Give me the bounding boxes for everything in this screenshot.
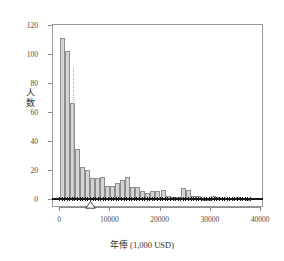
rug-tick (209, 197, 210, 201)
y-tick-label: 80 (31, 79, 39, 88)
x-tick-label: 10000 (100, 215, 119, 224)
rug-tick (245, 197, 246, 201)
rug-tick (188, 197, 189, 201)
y-tick-label: 120 (27, 21, 38, 30)
y-tick-label: 0 (34, 195, 38, 204)
rug-tick (154, 197, 155, 201)
rug-tick (167, 197, 168, 201)
rug-tick (240, 197, 241, 201)
rug-tick (224, 197, 225, 201)
x-tick-label: 30000 (200, 215, 219, 224)
rug-tick (185, 197, 186, 201)
rug-tick (175, 197, 176, 201)
y-tick-label: 40 (31, 137, 39, 146)
rug-tick (118, 197, 119, 201)
rug-tick (201, 197, 202, 201)
rug-plot (52, 197, 263, 201)
median-marker-icon (85, 201, 96, 209)
rug-tick (108, 197, 109, 201)
rug-tick (222, 197, 223, 201)
rug-tick (180, 197, 181, 201)
rug-tick (191, 197, 192, 201)
rug-tick (196, 197, 197, 201)
rug-tick (178, 197, 179, 201)
rug-tick (131, 197, 132, 201)
y-tick-mark (48, 83, 52, 84)
rug-tick (170, 197, 171, 201)
x-tick-label: 40000 (251, 215, 270, 224)
rug-tick (152, 197, 153, 201)
rug-tick (206, 197, 207, 201)
x-axis-label-main: 年俸 (110, 240, 128, 250)
rug-tick (144, 197, 145, 201)
y-tick-mark (48, 141, 52, 142)
rug-tick (198, 197, 199, 201)
rug-tick (157, 197, 158, 201)
y-tick-mark (48, 25, 52, 26)
y-axis-label-char: 数 (24, 98, 36, 108)
y-tick-label: 20 (31, 166, 39, 175)
rug-tick (82, 197, 83, 201)
rug-tick (136, 197, 137, 201)
rug-tick (62, 197, 63, 201)
rug-tick (229, 197, 230, 201)
rug-tick (100, 197, 101, 201)
x-tick-mark (260, 207, 261, 211)
y-tick-label: 100 (27, 50, 38, 59)
rug-tick (126, 197, 127, 201)
chart-figure: 020406080100120 人数 年俸 (1,000 USD) 010000… (0, 0, 284, 261)
rug-tick (183, 197, 184, 201)
rug-tick (139, 197, 140, 201)
rug-tick (67, 197, 68, 201)
rug-tick (74, 197, 75, 201)
rug-tick (160, 197, 161, 201)
rug-tick (211, 197, 212, 201)
rug-tick (98, 197, 99, 201)
rug-tick (129, 197, 130, 201)
rug-tick (250, 197, 251, 201)
rug-tick (121, 197, 122, 201)
rug-tick (69, 197, 70, 201)
x-tick-label: 0 (57, 215, 61, 224)
rug-tick (214, 197, 215, 201)
rug-tick (162, 197, 163, 201)
rug-tick (237, 197, 238, 201)
rug-tick (134, 197, 135, 201)
y-tick-mark (48, 112, 52, 113)
rug-tick (173, 197, 174, 201)
mean-line (73, 67, 74, 200)
y-tick-label: 60 (31, 108, 39, 117)
y-tick-mark (48, 199, 52, 200)
rug-tick (149, 197, 150, 201)
rug-tick (242, 197, 243, 201)
x-tick-label: 20000 (150, 215, 169, 224)
rug-tick (64, 197, 65, 201)
rug-tick (59, 197, 60, 201)
rug-tick (124, 197, 125, 201)
rug-tick (247, 197, 248, 201)
rug-tick (142, 197, 143, 201)
plot-area (52, 24, 263, 207)
x-axis-label-unit: (1,000 USD) (128, 240, 174, 250)
y-tick-mark (48, 54, 52, 55)
rug-tick (72, 197, 73, 201)
y-tick-mark (48, 170, 52, 171)
rug-tick (165, 197, 166, 201)
rug-tick (103, 197, 104, 201)
y-axis-label-char: 人 (24, 88, 36, 98)
rug-tick (147, 197, 148, 201)
rug-tick (204, 197, 205, 201)
rug-tick (105, 197, 106, 201)
rug-tick (111, 197, 112, 201)
x-axis-label: 年俸 (1,000 USD) (0, 238, 284, 251)
rug-tick (227, 197, 228, 201)
rug-tick (193, 197, 194, 201)
histogram-bars (53, 25, 262, 206)
rug-tick (232, 197, 233, 201)
rug-tick (234, 197, 235, 201)
rug-tick (113, 197, 114, 201)
rug-tick (116, 197, 117, 201)
rug-tick (216, 197, 217, 201)
y-axis-label: 人数 (24, 88, 36, 108)
rug-tick (80, 197, 81, 201)
